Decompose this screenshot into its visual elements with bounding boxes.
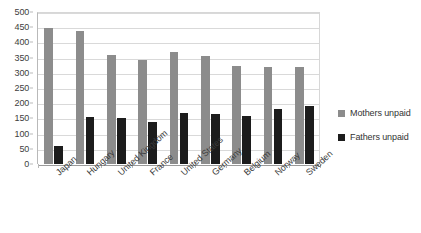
x-tick-mark — [38, 164, 39, 168]
bar-fathers — [242, 116, 251, 164]
x-tick-mark — [257, 164, 258, 168]
x-tick-mark — [320, 164, 321, 168]
bar-mothers — [107, 55, 116, 164]
y-tick-mark-350 — [30, 57, 33, 58]
x-tick-mark — [69, 164, 70, 168]
y-axis: 500450400350300250200150100500 — [0, 12, 33, 164]
bar-fathers — [305, 106, 314, 164]
y-tick-mark-250 — [30, 88, 33, 89]
legend-swatch-icon-fathers — [338, 134, 345, 141]
chart-legend: Mothers unpaidFathers unpaid — [338, 108, 420, 156]
y-tick-label-200: 200 — [15, 98, 29, 108]
legend-label: Fathers unpaid — [350, 132, 409, 142]
bar-fathers — [54, 146, 63, 164]
y-tick-label-100: 100 — [15, 129, 29, 139]
y-tick-mark-300 — [30, 72, 33, 73]
bar-mothers — [232, 66, 241, 164]
y-tick-mark-400 — [30, 42, 33, 43]
bar-group — [69, 12, 100, 164]
bar-group — [195, 12, 226, 164]
bar-mothers — [201, 56, 210, 164]
y-tick-label-150: 150 — [15, 113, 29, 123]
bar-chart: 500450400350300250200150100500 JapanHung… — [0, 0, 421, 233]
y-tick-label-250: 250 — [15, 83, 29, 93]
y-tick-label-450: 450 — [15, 22, 29, 32]
bar-mothers — [264, 67, 273, 164]
bar-group — [132, 12, 163, 164]
y-tick-label-350: 350 — [15, 53, 29, 63]
bar-group — [226, 12, 257, 164]
y-tick-label-300: 300 — [15, 68, 29, 78]
x-tick-mark — [289, 164, 290, 168]
bar-fathers — [117, 118, 126, 164]
bar-fathers — [180, 113, 189, 164]
y-tick-mark-100 — [30, 133, 33, 134]
y-tick-label-500: 500 — [15, 7, 29, 17]
legend-item-fathers[interactable]: Fathers unpaid — [338, 132, 420, 142]
bar-group — [101, 12, 132, 164]
y-tick-mark-500 — [30, 12, 33, 13]
bars-layer — [38, 12, 320, 164]
bar-mothers — [76, 31, 85, 164]
bar-mothers — [138, 60, 147, 164]
x-tick-mark — [226, 164, 227, 168]
y-tick-label-400: 400 — [15, 37, 29, 47]
bar-fathers — [211, 114, 220, 164]
x-tick-mark — [163, 164, 164, 168]
y-tick-mark-450 — [30, 27, 33, 28]
bar-fathers — [86, 117, 95, 164]
bar-group — [163, 12, 194, 164]
bar-mothers — [295, 67, 304, 164]
bar-mothers — [44, 28, 53, 164]
bar-fathers — [148, 122, 157, 164]
bar-group — [38, 12, 69, 164]
legend-swatch-icon-mothers — [338, 110, 345, 117]
x-tick-mark — [195, 164, 196, 168]
bar-group — [257, 12, 288, 164]
x-tick-mark — [101, 164, 102, 168]
y-tick-mark-150 — [30, 118, 33, 119]
y-tick-label-0: 0 — [24, 159, 29, 169]
legend-item-mothers[interactable]: Mothers unpaid — [338, 108, 420, 118]
y-tick-mark-200 — [30, 103, 33, 104]
x-axis-ticks — [38, 164, 320, 168]
y-tick-label-50: 50 — [19, 144, 29, 154]
legend-label: Mothers unpaid — [350, 108, 411, 118]
bar-group — [289, 12, 320, 164]
x-tick-mark — [132, 164, 133, 168]
y-tick-mark-0 — [30, 164, 33, 165]
y-tick-mark-50 — [30, 148, 33, 149]
bar-fathers — [274, 109, 283, 164]
bar-mothers — [170, 52, 179, 164]
